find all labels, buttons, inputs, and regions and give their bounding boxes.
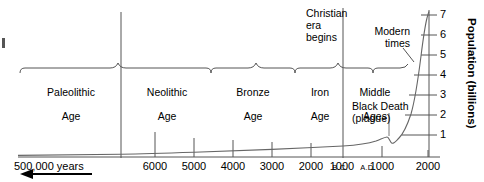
annotation-christian-era: Christian era begins — [306, 7, 346, 43]
era-brace-paleolithic-neolithic — [20, 63, 211, 73]
era-label-bronze-line2: Age — [244, 110, 263, 122]
population-growth-figure: Paleolithic Age Neolithic Age Bronze Age… — [0, 0, 484, 182]
era-label-paleolithic-line1: Paleolithic — [47, 86, 95, 98]
x-tick-label-2000ad: 2000 — [401, 160, 455, 172]
era-label-neolithic-line1: Neolithic — [147, 86, 187, 98]
era-brace-iron-middle — [295, 63, 373, 73]
y-tick-label-1: 1 — [440, 128, 446, 140]
annotation-black-death: Black Death (plague) — [352, 100, 424, 124]
annotation-modern-times: Modern times — [366, 25, 410, 49]
y-tick-label-5: 5 — [440, 48, 446, 60]
era-label-paleolithic-line2: Age — [62, 110, 81, 122]
era-label-bronze: Bronze Age — [213, 74, 293, 122]
era-label-iron-line2: Age — [311, 110, 330, 122]
era-label-iron-line1: Iron — [311, 86, 329, 98]
y-tick-label-2: 2 — [440, 108, 446, 120]
y-tick-label-3: 3 — [440, 88, 446, 100]
y-axis-title: Population (billions) — [466, 18, 478, 129]
x-tick-label-start: 500,000 years — [14, 160, 114, 172]
era-brace-bronze — [211, 63, 295, 73]
x-axis-ticks — [155, 132, 428, 157]
era-label-paleolithic: Paleolithic Age — [25, 74, 117, 122]
era-label-neolithic-line2: Age — [158, 110, 177, 122]
era-label-middle-ages-line1: Middle — [360, 86, 391, 98]
y-tick-label-7: 7 — [440, 8, 446, 20]
era-brace-middle-end — [373, 64, 408, 73]
leader-modern-times — [403, 48, 414, 62]
era-label-bronze-line1: Bronze — [236, 86, 269, 98]
era-label-neolithic: Neolithic Age — [125, 74, 209, 122]
y-tick-label-6: 6 — [440, 28, 446, 40]
era-label-iron: Iron Age — [297, 74, 343, 122]
y-tick-label-4: 4 — [440, 68, 446, 80]
